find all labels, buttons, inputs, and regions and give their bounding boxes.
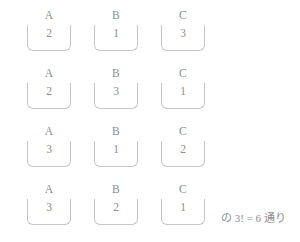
slot-b: B 1 [94,8,138,56]
slot-value: 3 [27,200,71,215]
permutation-row: A 3 B 1 C 2 [0,124,300,172]
slot-letter: C [161,182,205,196]
slot-value: 1 [161,84,205,99]
slot-value: 2 [161,142,205,157]
slot-a: A 3 [27,124,71,172]
slot-letter: A [27,8,71,22]
slot-value: 3 [161,26,205,41]
slot-letter: A [27,66,71,80]
slot-a: A 2 [27,8,71,56]
slot-letter: B [94,182,138,196]
slot-value: 2 [27,26,71,41]
slot-value: 1 [94,26,138,41]
permutation-row: A 2 B 3 C 1 [0,66,300,114]
slot-letter: B [94,66,138,80]
slot-value: 1 [161,200,205,215]
slot-c: C 1 [161,66,205,114]
slot-value: 2 [27,84,71,99]
slot-letter: C [161,66,205,80]
slot-b: B 2 [94,182,138,230]
slot-c: C 3 [161,8,205,56]
slot-letter: A [27,182,71,196]
slot-letter: C [161,124,205,138]
permutation-diagram: A 2 B 1 C 3 A 2 B 3 C 1 [0,0,300,242]
slot-letter: C [161,8,205,22]
permutation-row: A 2 B 1 C 3 [0,8,300,56]
slot-a: A 2 [27,66,71,114]
slot-value: 2 [94,200,138,215]
slot-letter: B [94,8,138,22]
slot-b: B 1 [94,124,138,172]
count-annotation: の 3! = 6 通り [221,210,286,226]
slot-c: C 1 [161,182,205,230]
slot-value: 3 [94,84,138,99]
slot-value: 3 [27,142,71,157]
slot-value: 1 [94,142,138,157]
slot-letter: B [94,124,138,138]
slot-a: A 3 [27,182,71,230]
slot-b: B 3 [94,66,138,114]
slot-c: C 2 [161,124,205,172]
slot-letter: A [27,124,71,138]
